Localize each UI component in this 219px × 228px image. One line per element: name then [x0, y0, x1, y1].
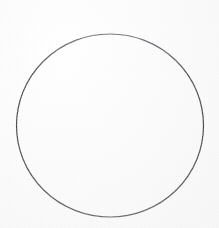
ghost-text-bottom-right — [178, 206, 218, 215]
circle-outline — [17, 34, 204, 217]
ghost-text-top-right — [150, 3, 218, 12]
ghost-text-top-right-content — [150, 4, 188, 11]
ghost-text-line-2 — [6, 97, 217, 108]
ghost-text-line-2-content — [6, 98, 136, 107]
paper-grain — [0, 0, 219, 228]
scanned-page — [0, 0, 219, 228]
ghost-text-line-1 — [2, 82, 217, 94]
ink-grain-overlay — [0, 0, 219, 228]
ghost-text-line-3 — [10, 133, 210, 143]
ghost-text-line-3-content — [10, 134, 114, 142]
ghost-text-bottom-right-content — [178, 207, 207, 214]
circle-figure — [0, 0, 219, 228]
paper-texture — [0, 0, 219, 228]
ghost-text-line-1-content — [2, 83, 160, 93]
